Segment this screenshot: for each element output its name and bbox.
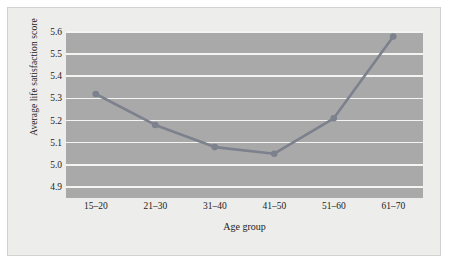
y-tick-label: 5.0	[40, 160, 62, 170]
x-axis-title: Age group	[66, 221, 423, 232]
data-point-marker	[330, 115, 337, 122]
x-tick-label: 41–50	[244, 201, 304, 211]
plot-area	[66, 32, 423, 198]
y-tick-label: 5.1	[40, 138, 62, 148]
series-line	[96, 36, 394, 153]
line-series	[66, 32, 423, 198]
y-tick-label: 5.6	[40, 27, 62, 37]
chart-figure: Average life satisfaction score 4.95.05.…	[7, 7, 441, 256]
y-tick-label: 5.3	[40, 93, 62, 103]
x-tick-label: 51–60	[304, 201, 364, 211]
x-tick-label: 31–40	[185, 201, 245, 211]
y-tick-label: 5.4	[40, 71, 62, 81]
x-tick-label: 61–70	[363, 201, 423, 211]
data-point-marker	[152, 122, 159, 129]
y-tick-label: 5.2	[40, 116, 62, 126]
x-tick-label: 21–30	[125, 201, 185, 211]
data-point-marker	[390, 33, 397, 40]
x-axis-tick-labels: 15–2021–3031–4041–5051–6061–70	[66, 201, 423, 217]
y-tick-label: 5.5	[40, 49, 62, 59]
data-point-marker	[92, 91, 99, 98]
y-tick-label: 4.9	[40, 182, 62, 192]
data-point-marker	[271, 150, 278, 157]
y-axis-tick-labels: 4.95.05.15.25.35.45.55.6	[34, 32, 62, 198]
data-point-marker	[211, 144, 218, 151]
x-tick-label: 15–20	[66, 201, 126, 211]
